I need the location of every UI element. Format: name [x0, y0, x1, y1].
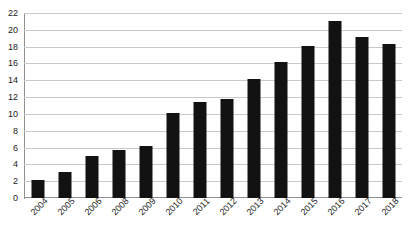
x-axis-tick-slot: 2004	[24, 199, 51, 234]
x-axis-tick-label: 2006	[82, 196, 103, 217]
x-axis-tick-label: 2008	[109, 196, 130, 217]
y-axis-tick-label: 0	[13, 194, 18, 203]
x-axis-tick-label: 2013	[244, 196, 265, 217]
x-axis-tick-label: 2011	[190, 196, 211, 217]
x-axis-tick-slot: 2015	[294, 199, 321, 234]
bar-slot	[186, 13, 213, 198]
x-axis-tick-slot: 2013	[240, 199, 267, 234]
bar-slot	[105, 13, 132, 198]
y-axis-tick-labels: 0246810121416182022	[0, 13, 21, 198]
x-axis-tick-label: 2018	[379, 196, 400, 217]
y-axis-tick-label: 12	[8, 93, 18, 102]
x-axis-tick-label: 2004	[28, 196, 49, 217]
x-axis-tick-label: 2014	[271, 196, 292, 217]
x-axis-tick-slot: 2010	[159, 199, 186, 234]
y-axis-tick-label: 20	[8, 25, 18, 34]
bar-slot	[240, 13, 267, 198]
bar-chart-figure: 0246810121416182022 20042005200620082009…	[0, 0, 409, 234]
bar-slot	[267, 13, 294, 198]
x-axis-tick-label: 2005	[55, 196, 76, 217]
x-axis-tick-label: 2009	[136, 196, 157, 217]
bar	[301, 46, 314, 198]
bar	[139, 146, 152, 198]
bar	[58, 172, 71, 198]
x-axis-tick-slot: 2005	[51, 199, 78, 234]
bar-slot	[132, 13, 159, 198]
plot-area	[24, 13, 402, 198]
y-axis-tick-label: 8	[13, 126, 18, 135]
y-axis-tick-label: 4	[13, 160, 18, 169]
bar-slot	[213, 13, 240, 198]
x-axis-tick-label: 2012	[217, 196, 238, 217]
x-axis-tick-slot: 2017	[348, 199, 375, 234]
bar-slot	[24, 13, 51, 198]
x-axis-tick-slot: 2011	[186, 199, 213, 234]
bar-slot	[348, 13, 375, 198]
bar	[247, 79, 260, 198]
x-axis-tick-slot: 2016	[321, 199, 348, 234]
bar	[166, 113, 179, 198]
x-axis-tick-slot: 2012	[213, 199, 240, 234]
x-axis-tick-slot: 2006	[78, 199, 105, 234]
bar	[328, 21, 341, 198]
bar	[112, 150, 125, 198]
x-axis-tick-slot: 2018	[375, 199, 402, 234]
x-axis-tick-labels: 2004200520062008200920102011201220132014…	[24, 199, 402, 234]
y-axis-tick-label: 22	[8, 9, 18, 18]
y-axis-tick-label: 2	[13, 177, 18, 186]
x-axis-tick-label: 2017	[352, 196, 373, 217]
bar	[355, 37, 368, 198]
bar-slot	[78, 13, 105, 198]
y-axis-tick-label: 14	[8, 76, 18, 85]
x-axis-tick-label: 2015	[298, 196, 319, 217]
y-axis-tick-label: 6	[13, 143, 18, 152]
bar-slot	[51, 13, 78, 198]
bar-slot	[375, 13, 402, 198]
bar-slot	[159, 13, 186, 198]
x-axis-tick-label: 2016	[325, 196, 346, 217]
x-axis-tick-slot: 2009	[132, 199, 159, 234]
bar	[220, 99, 233, 198]
bar	[274, 62, 287, 198]
bar-slot	[294, 13, 321, 198]
x-axis-tick-label: 2010	[163, 196, 184, 217]
bar	[382, 44, 395, 198]
y-axis-tick-label: 18	[8, 42, 18, 51]
bar	[193, 102, 206, 198]
bars-layer	[24, 13, 402, 198]
clipped-title-text	[0, 0, 409, 9]
x-axis-tick-slot: 2014	[267, 199, 294, 234]
y-axis-tick-label: 16	[8, 59, 18, 68]
x-axis-tick-slot: 2008	[105, 199, 132, 234]
y-axis-tick-label: 10	[8, 109, 18, 118]
bar	[85, 156, 98, 198]
bar-slot	[321, 13, 348, 198]
